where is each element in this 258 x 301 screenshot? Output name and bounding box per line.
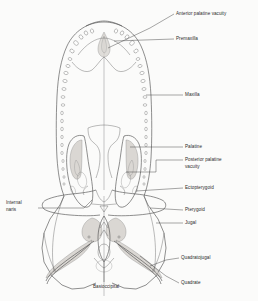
- label-basioccipital: Basioccipital: [93, 284, 119, 289]
- label-anterior-palatine-vacuity: Anterior palatine vacuity: [176, 11, 227, 16]
- leader-premaxilla: [114, 39, 174, 41]
- skull-drawing: [42, 21, 166, 296]
- label-posterior-palatine-vacuity-line2: vacuity: [185, 164, 200, 169]
- label-palatine: Palatine: [185, 144, 202, 149]
- leader-pterygoid: [150, 208, 183, 210]
- anterior-palatine-vacuity-shape: [98, 32, 110, 57]
- label-quadratojugal: Quadratojugal: [181, 255, 211, 260]
- label-premaxilla: Premaxilla: [176, 36, 198, 41]
- label-jugal: Jugal: [185, 220, 196, 225]
- label-pterygoid: Pterygoid: [185, 207, 205, 212]
- label-internal-naris-line1: Internal: [6, 200, 22, 205]
- label-posterior-palatine-vacuity-line1: Posterior palatine: [185, 157, 222, 162]
- leader-lines: [38, 14, 183, 283]
- label-texts: Anterior palatine vacuity Premaxilla Max…: [6, 11, 227, 289]
- label-ectopterygoid: Ectopterygoid: [185, 185, 214, 190]
- leader-ectopterygoid: [136, 188, 183, 191]
- label-quadrate: Quadrate: [181, 280, 201, 285]
- label-maxilla: Maxilla: [185, 92, 200, 97]
- internal-naris-left: [67, 135, 93, 207]
- skull-palatal-diagram: Anterior palatine vacuity Premaxilla Max…: [0, 0, 258, 301]
- label-internal-naris-line2: naris: [6, 207, 17, 212]
- internal-naris-right: [115, 135, 141, 207]
